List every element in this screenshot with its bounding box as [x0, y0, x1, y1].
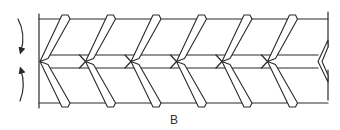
flight-junction — [125, 55, 131, 68]
screw-flights — [40, 15, 328, 107]
flight-junction — [216, 55, 222, 68]
flight-junction — [262, 55, 268, 68]
flight-junction — [80, 55, 86, 68]
screw-diagram: B — [0, 0, 340, 130]
rotation-arrow-lower-icon — [20, 70, 23, 101]
figure-label: B — [170, 113, 178, 127]
flight-junction — [171, 55, 177, 68]
rotation-arrow-upper-icon — [18, 19, 23, 51]
flight-end — [318, 40, 328, 82]
